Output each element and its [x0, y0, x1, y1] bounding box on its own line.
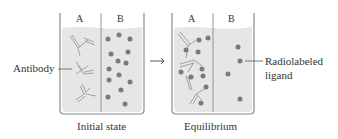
caption-equilibrium: Equilibrium [184, 120, 237, 132]
beaker-initial [58, 13, 144, 114]
caption-initial: Initial state [77, 120, 126, 132]
compartment-a-label-initial: A [76, 13, 83, 24]
compartment-b-label-initial: B [117, 13, 124, 24]
ligand-callout-label-line2: ligand [265, 69, 293, 81]
compartment-a-label-equilibrium: A [188, 13, 195, 24]
compartment-b-label-equilibrium: B [228, 13, 235, 24]
ligand-callout-label-line1: Radiolabeled [265, 55, 323, 67]
beaker-equilibrium [172, 13, 263, 114]
arrow-icon [150, 58, 164, 64]
antibody-callout-label: Antibody [13, 62, 55, 74]
